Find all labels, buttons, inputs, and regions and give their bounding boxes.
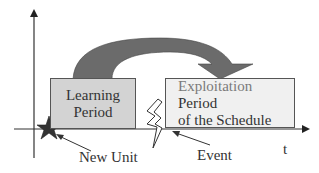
lightning-bolt-icon [147,99,162,148]
new-unit-label: New Unit [79,149,138,166]
curved-arrow-icon [73,38,253,79]
learning-period-line1: Learning [66,87,120,104]
exploitation-period-box: Exploitation Period of the Schedule [165,78,295,128]
learning-period-line2: Period [66,104,120,121]
y-axis [30,9,38,158]
period-word: Period [178,95,217,111]
exploitation-word: Exploitation [178,78,252,94]
exploitation-period-line2: of the Schedule [178,112,294,129]
event-label: Event [197,147,232,164]
event-pointer [172,131,210,145]
time-axis-label: t [283,141,287,158]
learning-period-box: Learning Period [50,78,136,129]
exploitation-period-line1: Exploitation Period [178,78,294,112]
timeline-diagram: Learning Period Exploitation Period of t… [0,0,319,173]
